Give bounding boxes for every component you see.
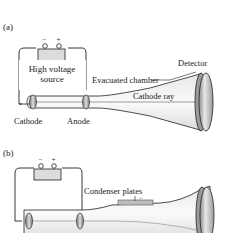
detector-label: Detector [178, 58, 207, 68]
cathode-b [26, 213, 33, 229]
panel-a: (a) − + High voltage source Evacuated ch… [3, 22, 213, 131]
panel-a-tag: (a) [3, 22, 13, 32]
negative-terminal-icon-b [39, 164, 44, 169]
cathode-label: Cathode [14, 116, 43, 126]
positive-sign-b: + [52, 156, 56, 164]
detector-b [200, 187, 214, 233]
condenser-plates-label: Condenser plates [84, 186, 142, 196]
cathode-ray-label: Cathode ray [133, 91, 175, 101]
negative-sign-b: − [39, 156, 43, 164]
condenser-plate [118, 200, 153, 205]
anode [83, 95, 90, 109]
source-label-line2: source [40, 74, 64, 84]
battery-body [38, 49, 65, 61]
positive-sign: + [57, 36, 61, 44]
panel-b: (b) − + Condenser plates − [3, 148, 214, 233]
negative-terminal-icon [43, 44, 48, 49]
positive-terminal-icon-b [52, 164, 57, 169]
cathode [30, 95, 37, 109]
battery: − + [38, 36, 65, 61]
battery-b: − + [34, 156, 61, 180]
anode-label: Anode [67, 116, 90, 126]
source-label-line1: High voltage [29, 64, 76, 74]
anode-b [77, 213, 84, 229]
detector [199, 73, 213, 131]
chamber-label: Evacuated chamber [92, 75, 159, 85]
positive-terminal-icon [57, 44, 62, 49]
battery-body-b [34, 169, 61, 180]
cathode-ray-diagram: (a) − + High voltage source Evacuated ch… [0, 0, 228, 233]
panel-b-tag: (b) [3, 148, 14, 158]
negative-sign: − [43, 36, 47, 44]
